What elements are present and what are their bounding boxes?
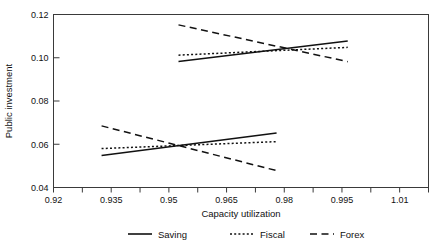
y-tick-label: 0.10: [31, 53, 49, 63]
legend-label-forex: Forex: [340, 229, 365, 240]
x-tick-label: 0.965: [215, 195, 238, 205]
chart-figure: 0.920.9350.950.9650.980.9951.01 0.040.06…: [0, 0, 447, 250]
x-tick-label: 1.01: [391, 195, 409, 205]
x-tick-label: 0.98: [276, 195, 294, 205]
y-tick-label: 0.08: [31, 96, 49, 106]
y-tick-label: 0.12: [31, 10, 49, 20]
x-tick-label: 0.935: [100, 195, 123, 205]
y-tick-label: 0.04: [31, 183, 49, 193]
legend-label-saving: Saving: [158, 229, 187, 240]
x-tick-label: 0.995: [331, 195, 354, 205]
x-axis-label: Capacity utilization: [201, 208, 280, 219]
legend-label-fiscal: Fiscal: [260, 229, 285, 240]
x-tick-label: 0.95: [160, 195, 178, 205]
y-tick-label: 0.06: [31, 140, 49, 150]
x-tick-label: 0.92: [45, 195, 63, 205]
y-axis-label: Public investment: [3, 63, 14, 138]
